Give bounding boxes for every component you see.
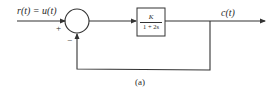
output-label: c(t) — [221, 8, 235, 18]
tf-numerator: K — [149, 14, 154, 22]
summing-junction — [65, 9, 89, 33]
tf-denominator: 1 + 2s — [143, 23, 159, 31]
input-label: r(t) = u(t) — [17, 6, 57, 16]
figure-caption: (a) — [135, 78, 145, 87]
transfer-function: K 1 + 2s — [137, 8, 165, 36]
plus-sign: + — [56, 24, 61, 33]
minus-sign: − — [67, 36, 72, 45]
